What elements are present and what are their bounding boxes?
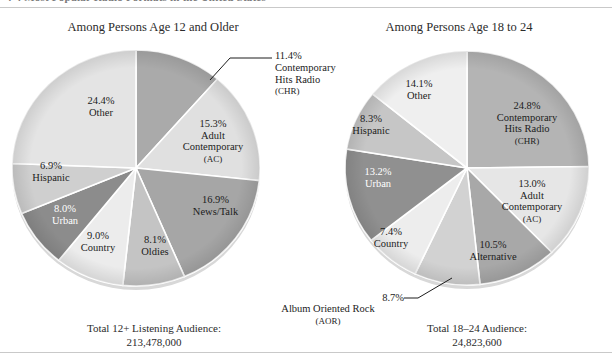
figure-canvas: 4-4 Most Popular Radio Formats in the Un… bbox=[0, 0, 612, 360]
bottom-divider bbox=[0, 352, 612, 353]
left-pie-shading bbox=[12, 50, 260, 286]
right-pie-chart: 14.1%Other 24.8%ContemporaryHits Radio(C… bbox=[342, 42, 612, 302]
top-divider bbox=[0, 7, 612, 8]
left-chr-leader-line bbox=[208, 48, 274, 82]
left-chr-callout: 11.4%ContemporaryHits Radio(CHR) bbox=[275, 50, 336, 98]
right-aor-leader-line bbox=[404, 276, 454, 302]
right-total-caption: Total 18–24 Audience: 24,823,600 bbox=[352, 322, 602, 349]
right-chart-title: Among Persons Age 18 to 24 bbox=[306, 20, 612, 35]
right-pie-svg bbox=[342, 42, 612, 302]
right-pie-shading bbox=[345, 51, 589, 285]
clipped-header-strip: 4-4 Most Popular Radio Formats in the Un… bbox=[0, 0, 612, 7]
clipped-header-text: 4-4 Most Popular Radio Formats in the Un… bbox=[6, 0, 266, 3]
left-chart-title: Among Persons Age 12 and Older bbox=[0, 20, 306, 35]
